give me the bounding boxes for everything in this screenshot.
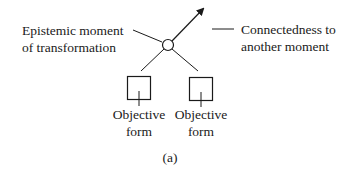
left-label: Epistemic moment of transformation	[22, 22, 124, 56]
form-left-line1: Objective	[104, 106, 174, 123]
link-right-form	[172, 49, 198, 71]
left-label-line2: of transformation	[22, 39, 124, 56]
left-label-leader	[133, 30, 162, 42]
link-left-form	[141, 49, 164, 71]
form-right-line1: Objective	[166, 106, 236, 123]
right-label-line1: Connectedness to	[241, 21, 336, 38]
objective-form-label-left: Objective form	[104, 106, 174, 140]
diagram-canvas: Epistemic moment of transformation Conne…	[0, 0, 348, 172]
right-label-line2: another moment	[241, 38, 336, 55]
objective-form-label-right: Objective form	[166, 106, 236, 140]
form-right-line2: form	[166, 123, 236, 140]
left-label-line1: Epistemic moment	[22, 22, 124, 39]
form-left-line2: form	[104, 123, 174, 140]
right-label: Connectedness to another moment	[241, 21, 336, 55]
connectedness-arrow	[172, 9, 203, 41]
moment-node	[163, 40, 174, 51]
figure-caption: (a)	[150, 149, 190, 166]
